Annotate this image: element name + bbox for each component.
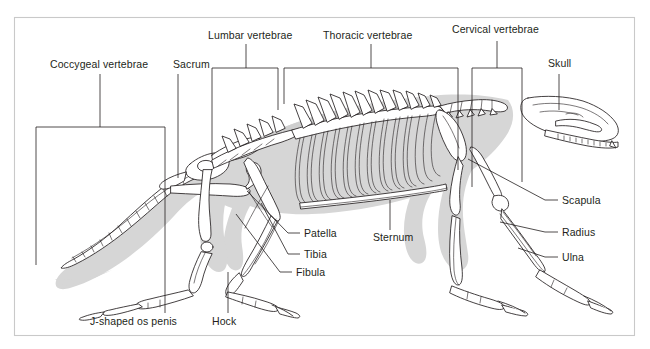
skeleton-diagram: .bone{fill:#ffffff;stroke:#231f20;stroke… xyxy=(0,0,650,349)
label-thoracic-vertebrae: Thoracic vertebrae xyxy=(323,30,412,41)
label-hock: Hock xyxy=(212,316,236,327)
label-radius: Radius xyxy=(562,227,595,238)
skull-bones xyxy=(521,96,619,148)
label-fibula: Fibula xyxy=(296,267,325,278)
label-tibia: Tibia xyxy=(304,249,327,260)
label-lumbar-vertebrae: Lumbar vertebrae xyxy=(208,30,292,41)
label-sacrum: Sacrum xyxy=(173,59,210,70)
figure-panel: .bone{fill:#ffffff;stroke:#231f20;stroke… xyxy=(0,0,650,349)
label-cervical-vertebrae: Cervical vertebrae xyxy=(452,24,539,35)
label-ulna: Ulna xyxy=(562,252,584,263)
label-patella: Patella xyxy=(304,228,337,239)
label-sternum: Sternum xyxy=(373,232,413,243)
label-j-shaped-os-penis: J-shaped os penis xyxy=(90,316,177,327)
label-scapula: Scapula xyxy=(562,195,601,206)
label-skull: Skull xyxy=(548,58,571,69)
label-coccygeal-vertebrae: Coccygeal vertebrae xyxy=(50,59,148,70)
